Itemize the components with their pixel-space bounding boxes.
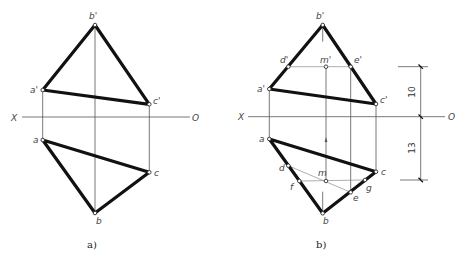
- point-a-prime: [41, 88, 45, 92]
- caption-b: b): [316, 239, 326, 250]
- panel-b: X O: [237, 11, 455, 250]
- point-b: [93, 211, 97, 215]
- axis-label-o: O: [192, 113, 199, 123]
- point-a: [268, 137, 272, 141]
- panel-a: X O b' a' c' a b c a): [10, 11, 199, 250]
- line-f-g: [299, 180, 365, 181]
- point-m: [324, 179, 328, 183]
- point-b-prime: [321, 23, 325, 27]
- label-f: f: [290, 182, 295, 192]
- point-g: [363, 178, 367, 182]
- label-d: d: [279, 163, 285, 173]
- label-b-prime: b': [89, 11, 97, 21]
- dimension-label-lower: 13: [407, 142, 417, 153]
- front-view-triangle: [43, 25, 150, 104]
- axis-label-x: X: [10, 113, 18, 123]
- point-f: [298, 179, 302, 183]
- arrow-up-icon: [325, 137, 328, 142]
- label-g: g: [366, 183, 372, 193]
- label-m-prime: m': [320, 55, 331, 65]
- label-a: a: [33, 135, 39, 145]
- point-c-prime: [374, 102, 378, 106]
- axis-label-x: X: [237, 112, 245, 122]
- point-c-prime: [148, 103, 152, 107]
- dimension-group: 10 13: [398, 65, 428, 183]
- label-e: e: [353, 193, 359, 203]
- label-m: m: [318, 168, 327, 178]
- point-d-prime: [287, 65, 291, 69]
- point-e: [349, 191, 353, 195]
- point-e-prime: [349, 65, 353, 69]
- point-c: [374, 170, 378, 174]
- point-a: [41, 138, 45, 142]
- point-a-prime: [268, 87, 272, 91]
- dimension-label-upper: 10: [407, 86, 417, 98]
- label-a: a: [259, 134, 265, 144]
- axis-label-o: O: [448, 112, 455, 122]
- label-d-prime: d': [280, 55, 288, 65]
- projection-drawing: X O b' a' c' a b c a) X O: [0, 0, 464, 262]
- point-c: [148, 171, 152, 175]
- label-c: c: [154, 168, 159, 178]
- label-a-prime: a': [257, 84, 265, 94]
- label-c: c: [381, 167, 386, 177]
- label-b-prime: b': [316, 11, 324, 21]
- point-m-prime: [324, 65, 328, 69]
- point-b-prime: [93, 23, 97, 27]
- label-c-prime: c': [380, 95, 387, 105]
- label-b: b: [96, 216, 102, 226]
- caption-a: a): [87, 239, 97, 250]
- top-view-triangle: [43, 140, 150, 213]
- point-d: [287, 164, 291, 168]
- label-e-prime: e': [354, 55, 362, 65]
- point-b: [321, 212, 325, 216]
- label-a-prime: a': [30, 85, 38, 95]
- label-b: b: [323, 216, 329, 226]
- label-c-prime: c': [153, 96, 160, 106]
